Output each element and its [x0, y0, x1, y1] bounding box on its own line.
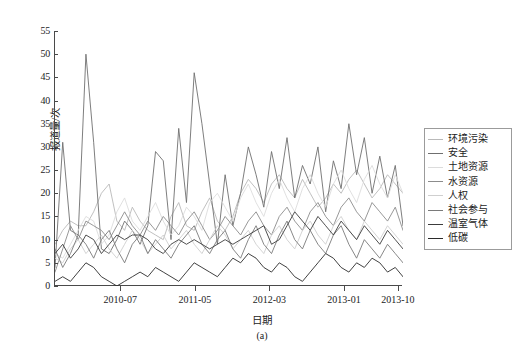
x-tick-mark: [344, 286, 345, 291]
plot-area: [54, 31, 402, 286]
legend-color-swatch: [428, 167, 443, 168]
legend-color-swatch: [428, 181, 443, 182]
y-tick-label: 50: [10, 48, 50, 59]
y-tick-mark: [54, 263, 58, 264]
x-tick-mark: [398, 286, 399, 291]
y-tick-label: 45: [10, 71, 50, 82]
y-tick-label: 5: [10, 257, 50, 268]
x-tick-label: 2013-01: [327, 294, 360, 305]
legend-color-swatch: [428, 224, 443, 225]
legend: 环境污染安全土地资源水资源人权社会参与温室气体低碳: [424, 128, 512, 250]
legend-color-swatch: [428, 195, 443, 196]
legend-item-label: 人权: [448, 191, 468, 201]
series-line: [55, 198, 403, 272]
y-tick-mark: [54, 286, 58, 287]
legend-item-label: 温室气体: [448, 219, 488, 229]
legend-item-label: 安全: [448, 148, 468, 158]
y-tick-mark: [54, 54, 58, 55]
y-tick-label: 55: [10, 25, 50, 36]
y-tick-mark: [54, 147, 58, 148]
legend-item[interactable]: 人权: [428, 189, 507, 203]
legend-color-swatch: [428, 210, 443, 211]
y-tick-mark: [54, 193, 58, 194]
y-tick-label: 35: [10, 118, 50, 129]
chart-series-layer: [55, 31, 403, 286]
legend-item-label: 社会参与: [448, 205, 488, 215]
legend-item[interactable]: 低碳: [428, 231, 507, 245]
y-tick-mark: [54, 216, 58, 217]
y-tick-label: 30: [10, 141, 50, 152]
y-tick-label: 10: [10, 234, 50, 245]
y-tick-label: 15: [10, 210, 50, 221]
x-tick-mark: [269, 286, 270, 291]
legend-item-label: 水资源: [448, 177, 478, 187]
series-line: [55, 221, 403, 267]
y-tick-mark: [54, 170, 58, 171]
figure-container: 报道量/次 05101520253035404550552010-072011-…: [0, 0, 524, 355]
x-tick-label: 2010-07: [104, 294, 137, 305]
legend-item[interactable]: 水资源: [428, 175, 507, 189]
figure-caption: (a): [0, 330, 524, 341]
legend-item-label: 环境污染: [448, 134, 488, 144]
series-line: [55, 165, 403, 258]
legend-item[interactable]: 环境污染: [428, 132, 507, 146]
y-tick-mark: [54, 77, 58, 78]
x-tick-mark: [195, 286, 196, 291]
legend-item[interactable]: 社会参与: [428, 203, 507, 217]
legend-color-swatch: [428, 153, 443, 154]
legend-color-swatch: [428, 238, 443, 239]
y-tick-mark: [54, 240, 58, 241]
legend-item[interactable]: 温室气体: [428, 217, 507, 231]
x-tick-label: 2012-03: [253, 294, 286, 305]
x-tick-label: 2011-05: [178, 294, 211, 305]
x-tick-mark: [120, 286, 121, 291]
legend-color-swatch: [428, 139, 443, 140]
series-line: [55, 212, 403, 258]
legend-item-label: 土地资源: [448, 162, 488, 172]
x-tick-label: 2013-10: [381, 294, 414, 305]
series-line: [55, 254, 403, 286]
legend-item-label: 低碳: [448, 233, 468, 243]
y-tick-mark: [54, 101, 58, 102]
legend-item[interactable]: 土地资源: [428, 160, 507, 174]
y-tick-label: 25: [10, 164, 50, 175]
y-tick-label: 20: [10, 187, 50, 198]
y-tick-label: 40: [10, 95, 50, 106]
x-axis-title: 日期: [0, 312, 524, 327]
legend-item[interactable]: 安全: [428, 146, 507, 160]
y-tick-label: 0: [10, 280, 50, 291]
y-tick-mark: [54, 31, 58, 32]
y-tick-mark: [54, 124, 58, 125]
series-line: [55, 54, 403, 267]
